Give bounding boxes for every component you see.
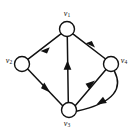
node-v4[interactable]: v4 (104, 56, 128, 72)
node-v4-circle[interactable] (104, 57, 119, 72)
node-v4-label: v4 (121, 56, 128, 65)
edge-v4-to-v1-line (73, 34, 105, 59)
node-v2-label: v2 (6, 56, 13, 65)
edge-v4-to-v3-curved (76, 71, 117, 111)
node-v1-label: v1 (64, 9, 71, 18)
node-v2-circle[interactable] (15, 57, 30, 72)
graph-canvas: v1 v2 v3 v4 (0, 0, 134, 131)
edge-v2-to-v3 (28, 69, 63, 106)
node-v1[interactable]: v1 (60, 9, 75, 37)
node-v2[interactable]: v2 (6, 56, 30, 72)
edge-v3-to-v1 (64, 37, 72, 103)
edge-v4-to-v3-curve (76, 71, 117, 111)
node-v3[interactable]: v3 (62, 103, 77, 129)
edge-v4-to-v3-arrowhead (97, 97, 107, 105)
node-v3-circle[interactable] (62, 103, 77, 118)
directed-graph-figure: v1 v2 v3 v4 (0, 0, 134, 131)
node-v3-label: v3 (64, 119, 71, 128)
edge-v4-to-v1 (73, 34, 105, 59)
edge-v1-to-v2 (28, 34, 61, 60)
node-v1-circle[interactable] (60, 22, 75, 37)
edge-v3-to-v1-arrowhead (64, 61, 72, 70)
edge-v1-to-v2-line (28, 34, 61, 60)
